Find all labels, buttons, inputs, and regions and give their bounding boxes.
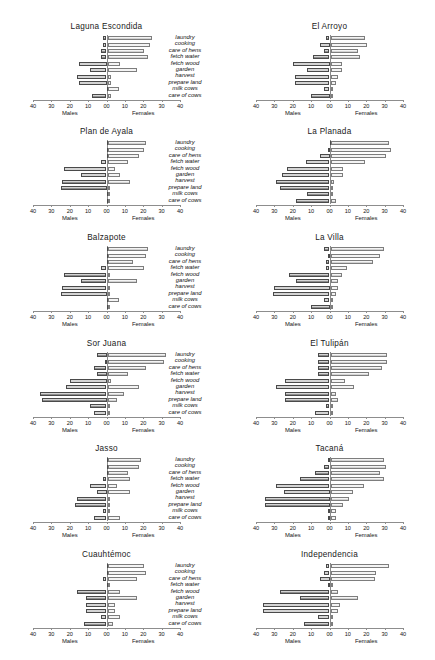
bar-row [256,353,403,357]
axis-minor-tick [136,311,137,312]
bar-row [256,94,403,98]
bar-female [331,615,333,619]
axis-minor-tick [267,522,268,523]
axis-tick-label: 30 [48,208,54,214]
plot-area [256,140,403,204]
axis-minor-tick [370,311,371,312]
bar-male [328,509,330,513]
panel-title: La Planada [256,127,403,136]
bar-female [108,490,130,494]
bar-row [256,385,403,389]
bar-male [318,360,329,364]
axis-tick [143,311,144,313]
bar-row [256,266,403,270]
bar-female [108,279,137,283]
bar-male [40,392,106,396]
axis-minor-tick [99,522,100,523]
axis-tick [274,628,275,630]
axis-minor-tick [48,205,49,206]
bar-row [256,154,403,158]
bar-row [256,577,403,581]
bar-row [256,490,403,494]
bar-female [331,516,337,520]
axis-minor-tick [118,311,119,312]
axis-minor-tick [388,311,389,312]
bar-female [331,465,386,469]
axis-minor-tick [114,100,115,101]
axis-minor-tick [344,205,345,206]
bar-male [289,273,329,277]
axis-tick [180,205,181,207]
bar-female [331,49,359,53]
bar-row [256,173,403,177]
axis-tick-label: 20 [67,420,73,426]
bar-male [300,596,329,600]
bar-female [108,596,137,600]
axis-minor-tick [132,205,133,206]
axis-tick [403,205,404,207]
panel-title: Plan de Ayala [33,127,180,136]
category-label-column: laundrycookingcare of hensfetch waterfet… [140,457,230,521]
bar-female [331,43,368,47]
bar-row [256,603,403,607]
axis-minor-tick [363,311,364,312]
axis-tick-label: 40 [400,631,406,637]
axis-tick-label: 40 [30,631,36,637]
bar-female [108,465,139,469]
bar-male [326,564,330,568]
bar-row [256,36,403,40]
axis-tick [125,522,126,524]
axis-tick [348,100,349,102]
axis-tick-label: 00 [326,314,332,320]
axis-tick [33,628,34,630]
axis-tick [162,628,163,630]
bar-row [256,622,403,626]
axis-name-females: Females [132,321,155,327]
bar-male [324,465,330,469]
category-label-column: laundrycookingcare of hensfetch waterfet… [140,35,230,99]
axis-minor-tick [307,205,308,206]
axis-tick [125,205,126,207]
axis-tick [366,100,367,102]
axis-tick [143,205,144,207]
bar-male [97,490,106,494]
axis-minor-tick [289,205,290,206]
bar-male [84,622,106,626]
axis-tick [330,628,331,630]
axis-minor-tick [377,311,378,312]
bar-row [256,286,403,290]
bar-female [108,75,112,79]
axis-tick [256,100,257,102]
axis-minor-tick [344,417,345,418]
bar-male [318,372,329,376]
bar-row [256,465,403,469]
axis-minor-tick [260,522,261,523]
axis-minor-tick [151,311,152,312]
axis-minor-tick [55,417,56,418]
axis-tick-label: 20 [67,208,73,214]
bar-female [108,458,141,462]
bar-male [103,509,107,513]
axis-name-males: Males [285,532,301,538]
axis-tick-label: 10 [85,103,91,109]
axis-name-males: Males [62,321,78,327]
axis-tick [311,628,312,630]
axis-minor-tick [337,417,338,418]
axis-minor-tick [114,205,115,206]
axis-minor-tick [129,417,130,418]
axis-tick-label: 40 [177,525,183,531]
axis-minor-tick [337,100,338,101]
axis-tick-label: 30 [271,525,277,531]
axis-minor-tick [151,522,152,523]
axis-minor-tick [359,628,360,629]
axis-minor-tick [48,628,49,629]
bar-row [256,43,403,47]
axis-minor-tick [132,417,133,418]
axis-tick-label: 20 [67,314,73,320]
axis-tick [330,311,331,313]
bar-female [108,484,117,488]
axis-minor-tick [352,205,353,206]
axis-minor-tick [318,417,319,418]
axis-minor-tick [140,522,141,523]
axis-minor-tick [388,100,389,101]
